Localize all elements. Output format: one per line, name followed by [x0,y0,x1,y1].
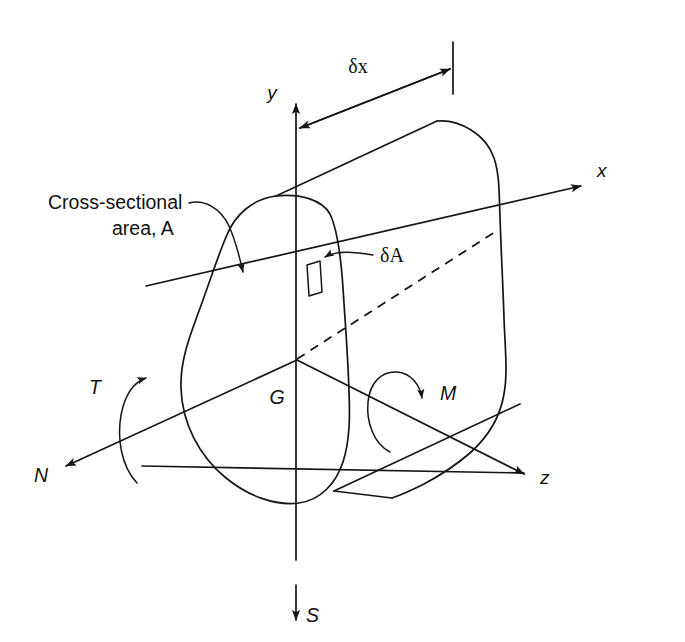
delta-x-arrow-left [300,69,450,128]
x-axis-line [146,186,581,286]
axis-label-z: z [539,467,550,488]
delta-a-leader-arrow [325,252,373,257]
top-tangent-edge [276,121,437,196]
axis-label-x: x [596,160,608,181]
axis-group [142,104,581,560]
rear-face-outline [392,121,506,498]
cross-section-label-line1: Cross-sectional [48,191,182,213]
origin-label-g: G [269,386,284,408]
delta-x-dimension [300,42,453,128]
axis-label-y: y [265,82,278,103]
bottom-right-tangent-edge [334,404,520,491]
cross-section-force-diagram: y x z G δx δA Cross-sectional area, A N … [0,0,685,642]
delta-a-label: δA [380,244,404,266]
force-label-t: T [89,376,103,398]
force-label-s: S [306,604,319,626]
delta-a-parallelogram [307,261,322,296]
force-label-m: M [440,382,457,404]
delta-x-label: δx [348,55,367,77]
bottom-tangent-edge [334,491,392,498]
force-label-n: N [34,464,49,486]
cross-section-outline [181,195,350,503]
z-axis-line [142,466,524,473]
figure-root: y x z G δx δA Cross-sectional area, A N … [0,0,685,642]
diagram-labels: y x z G δx δA Cross-sectional area, A N … [34,55,608,626]
cross-section-label-line2: area, A [112,217,174,239]
m-moment-arc [368,372,422,452]
